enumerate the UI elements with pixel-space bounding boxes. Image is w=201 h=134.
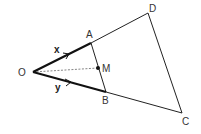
- label-O: O: [18, 67, 26, 78]
- segment-BC: [106, 92, 182, 113]
- segment-OM-dashed: [33, 68, 98, 72]
- label-M: M: [102, 63, 110, 74]
- point-M: [96, 66, 100, 70]
- label-B: B: [102, 95, 109, 106]
- vector-OA: [33, 43, 91, 72]
- label-C: C: [182, 116, 189, 127]
- label-D: D: [149, 3, 156, 14]
- vector-diagram: O A B M D C x y: [0, 0, 201, 134]
- label-vector-x: x: [54, 44, 60, 55]
- label-vector-y: y: [55, 82, 61, 93]
- segment-AD: [91, 13, 148, 43]
- vector-OB: [33, 72, 106, 92]
- label-A: A: [86, 29, 93, 40]
- segment-DC: [148, 13, 182, 113]
